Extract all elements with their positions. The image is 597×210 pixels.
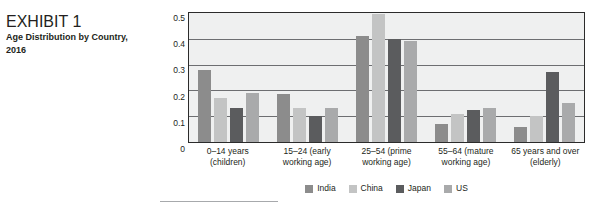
bar-china	[372, 14, 385, 142]
x-axis-category-label-line: 65 years and over	[506, 146, 585, 157]
x-axis-category-label-line: (children)	[188, 157, 267, 168]
bar-japan	[388, 39, 401, 142]
legend-swatch-icon	[444, 185, 452, 193]
x-axis-category-label-line: working age)	[426, 157, 505, 168]
y-axis-tick-label: 0.1	[173, 119, 185, 128]
plot-area	[188, 12, 585, 143]
bar-group	[426, 13, 505, 142]
x-axis: 0–14 years(children)15–24 (earlyworking …	[188, 146, 585, 168]
y-axis-tick-label: 0.4	[173, 40, 185, 49]
bar-india	[356, 36, 369, 142]
bar-japan	[467, 110, 480, 142]
bar-china	[451, 114, 464, 142]
x-axis-category-label-line: (elderly)	[506, 157, 585, 168]
exhibit-title: Age Distribution by Country, 2016	[6, 31, 146, 56]
x-axis-category-label-line: working age)	[347, 157, 426, 168]
x-axis-category-label-line: 15–24 (early	[267, 146, 346, 157]
x-axis-category-label: 15–24 (earlyworking age)	[267, 146, 346, 168]
bar-group	[268, 13, 347, 142]
bar-china	[293, 108, 306, 142]
bar-us	[483, 108, 496, 142]
chart-legend: IndiaChinaJapanUS	[188, 184, 585, 193]
y-axis-tick-label: 0	[180, 145, 185, 154]
bar-us	[562, 103, 575, 142]
legend-item-japan[interactable]: Japan	[396, 184, 431, 193]
bar-us	[325, 108, 338, 142]
bar-group	[347, 13, 426, 142]
legend-label: Japan	[408, 184, 431, 193]
legend-swatch-icon	[305, 185, 313, 193]
bar-india	[198, 70, 211, 142]
y-axis-tick-label: 0.3	[173, 66, 185, 75]
exhibit-number: EXHIBIT 1	[6, 13, 146, 31]
legend-label: China	[361, 184, 383, 193]
legend-item-us[interactable]: US	[444, 184, 468, 193]
y-axis-tick-label: 0.5	[173, 14, 185, 23]
legend-item-china[interactable]: China	[349, 184, 383, 193]
bar-us	[404, 41, 417, 142]
legend-item-india[interactable]: India	[305, 184, 335, 193]
bar-china	[214, 98, 227, 142]
legend-swatch-icon	[349, 185, 357, 193]
x-axis-category-label: 55–64 (matureworking age)	[426, 146, 505, 168]
x-axis-category-label-line: 25–54 (prime	[347, 146, 426, 157]
x-axis-category-label: 65 years and over(elderly)	[506, 146, 585, 168]
x-axis-category-label: 25–54 (primeworking age)	[347, 146, 426, 168]
bar-us	[246, 93, 259, 142]
bars-layer	[189, 13, 584, 142]
x-axis-category-label-line: working age)	[267, 157, 346, 168]
bar-china	[530, 116, 543, 142]
legend-label: India	[317, 184, 335, 193]
x-axis-category-label: 0–14 years(children)	[188, 146, 267, 168]
bar-group	[189, 13, 268, 142]
x-axis-category-label-line: 55–64 (mature	[426, 146, 505, 157]
x-axis-category-label-line: 0–14 years	[188, 146, 267, 157]
bar-japan	[546, 72, 559, 142]
bar-group	[505, 13, 584, 142]
bar-japan	[309, 116, 322, 142]
legend-label: US	[456, 184, 468, 193]
bar-chart: 0.50.40.30.20.10 0–14 years(children)15–…	[163, 6, 591, 202]
y-axis-tick-label: 0.2	[173, 92, 185, 101]
exhibit-caption: EXHIBIT 1 Age Distribution by Country, 2…	[6, 13, 146, 56]
bar-japan	[230, 108, 243, 142]
bar-india	[435, 124, 448, 142]
y-axis: 0.50.40.30.20.10	[163, 12, 185, 143]
legend-swatch-icon	[396, 185, 404, 193]
bar-india	[514, 127, 527, 142]
bar-india	[277, 94, 290, 142]
